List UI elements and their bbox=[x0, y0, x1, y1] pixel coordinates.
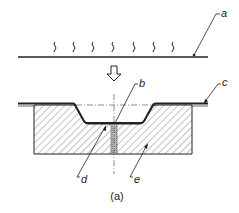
leader-a bbox=[193, 14, 220, 56]
label-a: a bbox=[221, 7, 227, 19]
heat-icon bbox=[133, 42, 135, 52]
heat-icon bbox=[172, 42, 174, 52]
heat-icon bbox=[153, 42, 155, 52]
label-e: e bbox=[134, 173, 140, 185]
label-d: d bbox=[81, 173, 88, 185]
heat-symbols bbox=[54, 42, 174, 52]
heat-icon bbox=[73, 42, 75, 52]
label-c: c bbox=[222, 76, 228, 88]
leader-c bbox=[204, 84, 221, 104]
label-b: b bbox=[139, 77, 145, 89]
heat-icon bbox=[112, 42, 114, 52]
figure-caption: (a) bbox=[110, 190, 123, 202]
heat-icon bbox=[54, 42, 56, 52]
thermoforming-diagram: a c b d e (a) bbox=[0, 0, 239, 213]
heat-icon bbox=[92, 42, 94, 52]
arrow-down-icon bbox=[107, 66, 121, 81]
leader-b bbox=[114, 84, 138, 124]
